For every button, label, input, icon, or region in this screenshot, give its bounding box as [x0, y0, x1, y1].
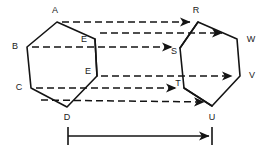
vertex-label-C: C [16, 82, 23, 92]
vertex-label-W: W [247, 34, 256, 44]
vertex-label-S: S [171, 46, 177, 56]
edge-E-upper-to-E-lower [95, 39, 97, 76]
edge-S-to-R [180, 22, 198, 48]
figure-canvas: A B C D E E R W V U T S [0, 0, 273, 155]
vertex-label-T: T [175, 78, 181, 88]
vertex-label-U: U [209, 112, 216, 122]
left-hexagon-labels: A B C D E E [12, 5, 91, 122]
vertex-label-E-lower: E [85, 66, 91, 76]
right-prism-interior-edges [180, 22, 212, 106]
edge-T-to-U [184, 88, 212, 106]
hexagonal-prism-translation-diagram: A B C D E E R W V U T S [0, 0, 273, 155]
vertex-label-R: R [193, 5, 200, 15]
vertex-label-A: A [52, 5, 58, 15]
vertex-label-B: B [12, 41, 18, 51]
translation-vector-D-to-U [41, 100, 204, 102]
vertex-label-V: V [249, 70, 255, 80]
vertex-label-D: D [64, 112, 71, 122]
translation-distance-indicator [68, 127, 212, 145]
left-prism-interior-edge [95, 39, 97, 76]
translation-vectors [32, 22, 232, 102]
vertex-label-E-upper: E [81, 34, 87, 44]
